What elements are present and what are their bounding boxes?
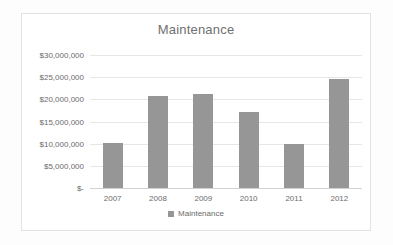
bar-2010[interactable] <box>239 112 259 188</box>
bar-2008[interactable] <box>148 96 168 188</box>
chart-title: Maintenance <box>22 22 370 37</box>
legend-label-maintenance: Maintenance <box>178 209 224 218</box>
y-axis-tick-label: $25,000,000 <box>40 73 85 82</box>
y-axis-tick-label: $10,000,000 <box>40 139 85 148</box>
x-axis-tick-label-2008: 2008 <box>149 194 167 203</box>
axis-baseline <box>90 188 362 189</box>
plot-area: $30,000,000$25,000,000$20,000,000$15,000… <box>90 55 362 188</box>
y-axis-tick-label: $5,000,000 <box>44 161 84 170</box>
x-axis-tick-label-2012: 2012 <box>330 194 348 203</box>
x-axis-tick-label-2009: 2009 <box>194 194 212 203</box>
chart-legend: Maintenance <box>22 209 370 218</box>
x-axis-tick-label-2007: 2007 <box>104 194 122 203</box>
bar-2012[interactable] <box>329 79 349 188</box>
x-axis-tick-label-2010: 2010 <box>240 194 258 203</box>
bar-slot <box>317 55 362 188</box>
legend-square-marker <box>168 211 174 217</box>
y-axis-tick-label: $- <box>77 184 84 193</box>
screenshot-page: Maintenance $30,000,000$25,000,000$20,00… <box>0 0 393 245</box>
bar-2007[interactable] <box>103 143 123 188</box>
bar-slot <box>135 55 180 188</box>
bar-slot <box>181 55 226 188</box>
y-axis-tick-label: $15,000,000 <box>40 117 85 126</box>
bar-series <box>90 55 362 188</box>
bar-slot <box>226 55 271 188</box>
bar-slot <box>271 55 316 188</box>
x-axis-tick-label-2011: 2011 <box>285 194 302 203</box>
chart-frame[interactable]: Maintenance $30,000,000$25,000,000$20,00… <box>21 13 371 231</box>
bar-slot <box>90 55 135 188</box>
y-axis-tick-label: $20,000,000 <box>40 95 85 104</box>
bar-2009[interactable] <box>193 94 213 188</box>
bar-2011[interactable] <box>284 144 304 188</box>
y-axis-tick-label: $30,000,000 <box>40 51 85 60</box>
